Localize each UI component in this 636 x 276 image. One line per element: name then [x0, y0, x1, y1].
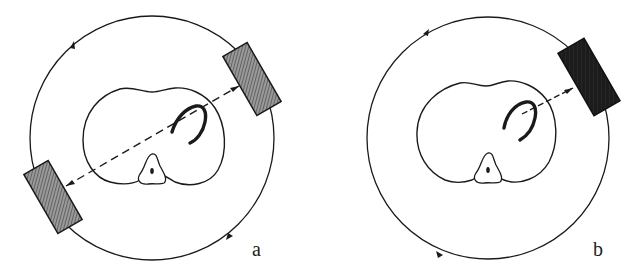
spinal-canal [486, 167, 490, 173]
diagram-canvas [0, 0, 636, 276]
rotation-arrow-icon [436, 251, 443, 258]
arrowhead-icon [230, 86, 239, 92]
panel-a [24, 16, 281, 260]
panel-label-b: b [593, 238, 603, 261]
rotation-arrow-icon [70, 41, 75, 49]
detector-bottom-left [24, 161, 82, 234]
curved-structure [504, 102, 536, 140]
detector-single [558, 38, 620, 115]
detector-top-right [223, 43, 281, 116]
spinal-canal [150, 168, 154, 174]
arrowhead-icon [66, 180, 75, 186]
panel-label-a: a [252, 238, 261, 261]
arrowhead-icon [564, 88, 573, 94]
curved-structure [172, 106, 206, 143]
panel-b [367, 17, 620, 259]
figure: a b [0, 0, 636, 276]
